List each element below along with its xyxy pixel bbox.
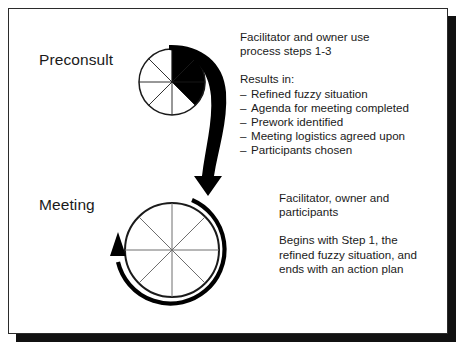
meeting-description-line-3: ends with an action plan	[279, 262, 444, 276]
preconsult-text-block: Facilitator and owner use process steps …	[240, 30, 446, 158]
preconsult-text-spacer	[240, 58, 446, 72]
list-item-label: Participants chosen	[251, 143, 352, 156]
bullet-dash-icon: –	[240, 87, 246, 101]
preconsult-results-list: – Refined fuzzy situation – Agenda for m…	[240, 87, 446, 158]
bullet-dash-icon: –	[240, 129, 246, 143]
preconsult-intro-line-2: process steps 1-3	[240, 44, 446, 58]
bullet-dash-icon: –	[240, 115, 246, 129]
figure-root: Preconsult Meeting Facilitator and owner…	[0, 0, 462, 349]
preconsult-intro-line-1: Facilitator and owner use	[240, 30, 446, 44]
stage-label-meeting: Meeting	[39, 196, 95, 214]
list-item-label: Prework identified	[251, 115, 343, 128]
list-item-label: Meeting logistics agreed upon	[251, 129, 405, 142]
list-item-label: Refined fuzzy situation	[251, 87, 368, 100]
meeting-participants-line-1: Facilitator, owner and	[279, 191, 444, 205]
bullet-dash-icon: –	[240, 101, 246, 115]
preconsult-results-heading: Results in:	[240, 72, 446, 86]
meeting-description-line-1: Begins with Step 1, the	[279, 233, 444, 247]
list-item: – Meeting logistics agreed upon	[240, 129, 446, 143]
stage-label-preconsult: Preconsult	[39, 51, 113, 69]
list-item: – Refined fuzzy situation	[240, 87, 446, 101]
meeting-text-spacer	[279, 219, 444, 233]
meeting-description-line-2: refined fuzzy situation, and	[279, 248, 444, 262]
list-item-label: Agenda for meeting completed	[251, 101, 409, 114]
meeting-text-block: Facilitator, owner and participants Begi…	[279, 191, 444, 276]
list-item: – Participants chosen	[240, 143, 446, 157]
list-item: – Prework identified	[240, 115, 446, 129]
list-item: – Agenda for meeting completed	[240, 101, 446, 115]
meeting-participants-line-2: participants	[279, 205, 444, 219]
bullet-dash-icon: –	[240, 143, 246, 157]
